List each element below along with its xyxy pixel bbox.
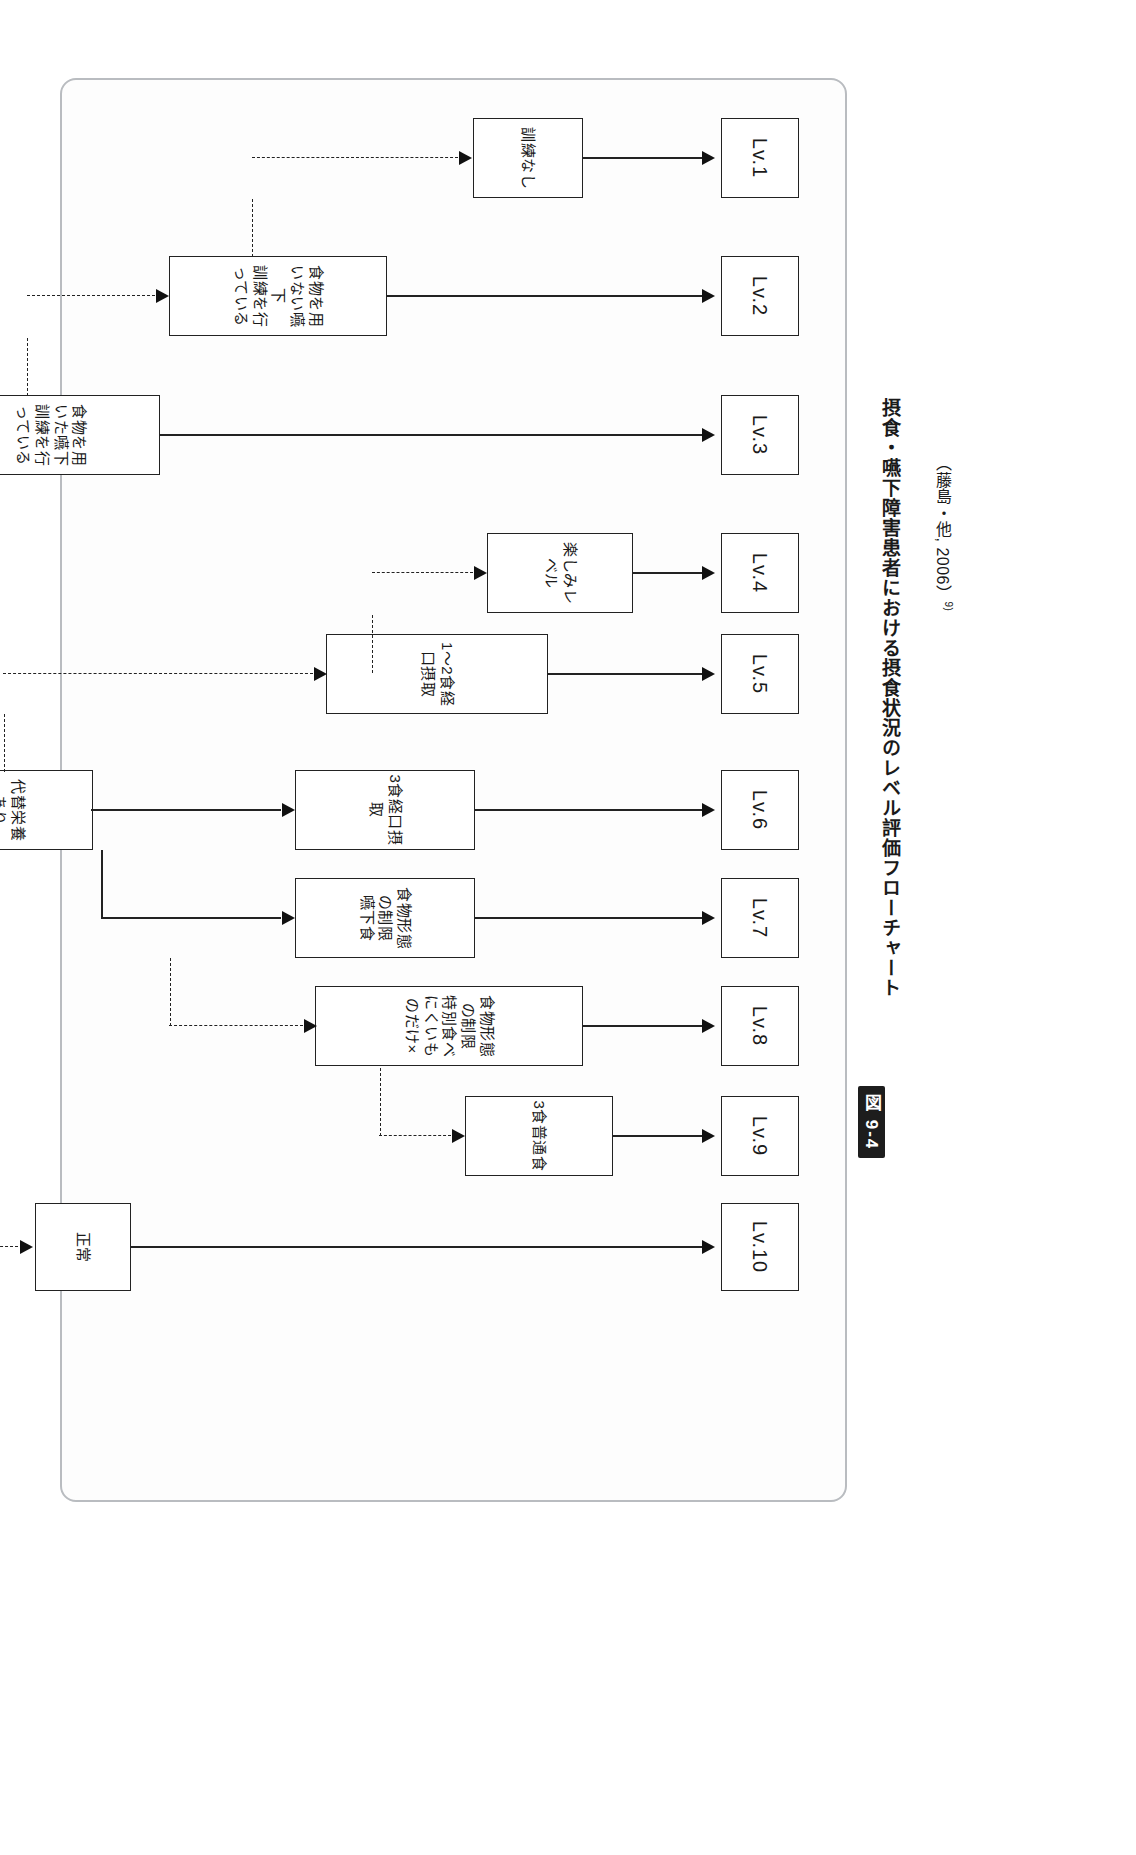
connector-limited-to-normal3	[380, 1068, 381, 1136]
node-label: 代替栄養あり	[0, 774, 27, 846]
connector-lv8	[583, 1025, 703, 1027]
arrowhead-no-training	[459, 151, 472, 165]
connector-alt-to-intake12	[4, 714, 5, 772]
arrowhead-lv4	[702, 566, 715, 580]
connector-lv9	[613, 1135, 703, 1137]
node-label: 3食普通食	[530, 1101, 549, 1172]
connector-nofoodtrain-riser	[27, 295, 155, 296]
node-label-line1: 食物形態の制限	[376, 882, 414, 954]
connector-lv2	[387, 295, 703, 297]
connector-lv1	[583, 157, 703, 159]
arrowhead-lv6	[702, 803, 715, 817]
node-no-training: 訓練なし	[473, 118, 583, 198]
node-pleasure-level: 楽しみレベル	[487, 533, 633, 613]
node-intake-3meals: 3食経口摂取	[295, 770, 475, 850]
arrowhead-lv7	[702, 911, 715, 925]
level-label: Lv.4	[748, 553, 773, 593]
level-label: Lv.6	[748, 790, 773, 830]
figure-number-badge: 図 9-4	[858, 1086, 885, 1158]
level-label: Lv.3	[748, 415, 773, 455]
level-box-lv5: Lv.5	[721, 634, 799, 714]
connector-lv10	[131, 1246, 703, 1248]
connector-intake3-to-dysphagia	[101, 850, 103, 918]
level-label: Lv.5	[748, 654, 773, 694]
level-box-lv1: Lv.1	[721, 118, 799, 198]
arrowhead-limited-form	[304, 1019, 317, 1033]
node-normal-3meals: 3食普通食	[465, 1096, 613, 1176]
connector-nofoodtrain-to-notrain	[252, 199, 253, 257]
connector-limited-riser	[169, 1025, 303, 1026]
node-label: 1〜2食経口摂取	[418, 638, 456, 710]
arrowhead-intake-1to2	[314, 667, 327, 681]
arrowhead-dysphagia-diet	[282, 911, 295, 925]
arrowhead-lv2	[702, 289, 715, 303]
level-label: Lv.9	[748, 1116, 773, 1156]
node-label: 楽しみレベル	[541, 537, 579, 609]
figure-source: （藤島・他, 2006）9)	[934, 455, 953, 611]
level-box-lv8: Lv.8	[721, 986, 799, 1066]
connector-intake12-riser	[3, 673, 313, 674]
node-label-line2: 訓練を行っている	[14, 399, 52, 471]
connector-normal3-riser	[379, 1135, 451, 1136]
node-intake-1to2: 1〜2食経口摂取	[326, 634, 548, 714]
node-food-training: 食物を用いた嚥下 訓練を行っている	[0, 395, 160, 475]
level-label: Lv.1	[748, 138, 773, 178]
flowchart-canvas: Lv.1 Lv.2 Lv.3 Lv.4 Lv.5 Lv.6 Lv.7 Lv.8 …	[60, 78, 843, 1498]
level-box-lv4: Lv.4	[721, 533, 799, 613]
node-label: 訓練なし	[519, 127, 538, 189]
connector-intake12-to-pleasure	[372, 615, 373, 673]
node-label-line2: 訓練を行っている	[231, 260, 269, 332]
node-label-line2: 特別食べにくいものだけ×	[402, 990, 458, 1062]
level-box-lv10: Lv.10	[721, 1203, 799, 1291]
node-label-line2: 嚥下食	[357, 895, 376, 942]
connector-notrain-riser	[252, 157, 458, 158]
connector-normal-riser	[0, 1246, 18, 1247]
connector-lv7	[475, 917, 703, 919]
arrowhead-no-food-training	[156, 289, 169, 303]
connector-lv3	[160, 434, 703, 436]
arrowhead-lv1	[702, 151, 715, 165]
node-label: 正常	[74, 1232, 93, 1263]
level-box-lv3: Lv.3	[721, 395, 799, 475]
connector-alt-to-intake3	[91, 809, 281, 811]
node-no-food-training: 食物を用いない嚥下 訓練を行っている	[169, 256, 387, 336]
level-box-lv7: Lv.7	[721, 878, 799, 958]
arrowhead-normal-3meals	[452, 1129, 465, 1143]
connector-lv4	[633, 572, 703, 574]
node-label-line1: 食物を用いない嚥下	[269, 260, 325, 332]
arrowhead-lv5	[702, 667, 715, 681]
connector-lv5	[548, 673, 703, 675]
figure-source-text: （藤島・他, 2006）	[934, 455, 951, 601]
arrowhead-normal	[20, 1240, 33, 1254]
level-label: Lv.8	[748, 1006, 773, 1046]
node-alt-nutrition: 代替栄養あり	[0, 770, 93, 850]
node-limited-food-form: 食物形態の制限 特別食べにくいものだけ×	[315, 986, 583, 1066]
node-label-line1: 食物形態の制限	[458, 990, 496, 1062]
connector-pleasure-riser	[372, 572, 473, 573]
node-label: 3食経口摂取	[366, 774, 404, 846]
level-label: Lv.7	[748, 898, 773, 938]
level-label: Lv.10	[748, 1221, 773, 1273]
node-dysphagia-diet: 食物形態の制限 嚥下食	[295, 878, 475, 958]
arrowhead-intake-3meals	[282, 803, 295, 817]
connector-dysphagia-to-limited	[170, 958, 171, 1026]
node-label-line1: 食物を用いた嚥下	[51, 399, 89, 471]
level-box-lv2: Lv.2	[721, 256, 799, 336]
figure-title: 摂食・嚥下障害患者における摂食状況のレベル評価フローチャート	[880, 398, 899, 998]
arrowhead-lv3	[702, 428, 715, 442]
connector-dysphagia-riser	[101, 917, 281, 919]
connector-foodtrain-to-nofoodtrain	[27, 338, 28, 396]
arrowhead-lv10	[702, 1240, 715, 1254]
level-label: Lv.2	[748, 276, 773, 316]
node-normal: 正常	[35, 1203, 131, 1291]
figure-source-ref: 9)	[943, 601, 954, 611]
arrowhead-lv9	[702, 1129, 715, 1143]
level-box-lv9: Lv.9	[721, 1096, 799, 1176]
level-box-lv6: Lv.6	[721, 770, 799, 850]
connector-lv6	[475, 809, 703, 811]
arrowhead-lv8	[702, 1019, 715, 1033]
arrowhead-pleasure	[474, 566, 487, 580]
